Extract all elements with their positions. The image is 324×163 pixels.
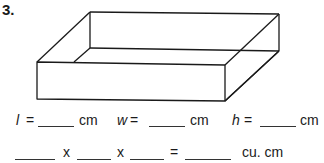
inner-bottom-left-edge xyxy=(74,48,90,62)
volume-equals: = xyxy=(170,145,178,159)
factor1-blank[interactable] xyxy=(15,159,55,160)
width-blank[interactable] xyxy=(149,126,185,127)
volume-result-blank[interactable] xyxy=(185,159,231,160)
width-equals: = xyxy=(130,113,138,127)
rectangular-prism-figure xyxy=(0,0,324,110)
factor2-blank[interactable] xyxy=(77,159,111,160)
width-unit: cm xyxy=(190,113,209,127)
back-top-edge xyxy=(90,12,279,14)
length-blank[interactable] xyxy=(38,126,74,127)
length-variable: l xyxy=(16,113,19,127)
volume-unit: cu. cm xyxy=(242,145,283,159)
height-blank[interactable] xyxy=(260,126,296,127)
height-unit: cm xyxy=(300,113,319,127)
times-sign-1: x xyxy=(63,145,70,159)
width-variable: w xyxy=(117,113,127,127)
length-equals: = xyxy=(26,113,34,127)
height-equals: = xyxy=(244,113,252,127)
length-unit: cm xyxy=(79,113,98,127)
height-variable: h xyxy=(232,113,240,127)
top-right-depth-edge xyxy=(225,14,279,65)
back-bottom-edge xyxy=(90,48,279,51)
factor3-blank[interactable] xyxy=(130,159,164,160)
front-face xyxy=(37,62,225,101)
times-sign-2: x xyxy=(117,145,124,159)
